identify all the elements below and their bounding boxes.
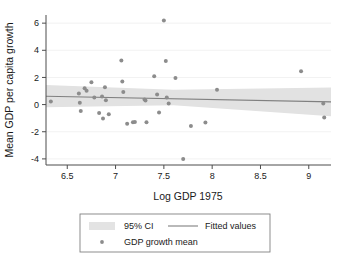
data-point [164, 59, 168, 63]
data-point [157, 110, 161, 114]
x-tick-label: 8 [210, 171, 215, 181]
legend-fitted-label: Fitted values [205, 221, 257, 231]
data-point [181, 157, 185, 161]
y-tick-label: 2 [34, 73, 39, 83]
data-point [103, 85, 107, 89]
data-point [322, 115, 326, 119]
chart-figure: -4-20246 6.577.588.59 Mean GDP per capit… [0, 0, 342, 258]
data-point [321, 102, 325, 106]
data-point [89, 80, 93, 84]
data-point [173, 76, 177, 80]
legend-scatter-label: GDP growth mean [124, 237, 198, 247]
data-point [167, 102, 171, 106]
x-tick-label: 7 [113, 171, 118, 181]
data-point [79, 109, 83, 113]
data-point [92, 96, 96, 100]
y-tick-label: 4 [34, 45, 39, 55]
data-point [133, 120, 137, 124]
data-point [152, 74, 156, 78]
legend-scatter-swatch [100, 240, 104, 244]
data-point [165, 96, 169, 100]
data-point [144, 99, 148, 103]
data-point [121, 90, 125, 94]
data-point [162, 18, 166, 22]
data-point [78, 101, 82, 105]
x-tick-label: 8.5 [254, 171, 267, 181]
x-tick-label: 7.5 [158, 171, 171, 181]
y-tick-label: -2 [31, 127, 39, 137]
y-axis-title: Mean GDP per capita growth [3, 22, 15, 157]
data-point [97, 111, 101, 115]
data-point [101, 116, 105, 120]
data-point [119, 58, 123, 62]
x-tick-label: 9 [306, 171, 311, 181]
data-point [299, 69, 303, 73]
y-axis-ticks: -4-20246 [31, 18, 46, 164]
data-point [125, 122, 129, 126]
scatter-plot: -4-20246 6.577.588.59 Mean GDP per capit… [0, 0, 342, 258]
legend-ci-label: 95% CI [124, 221, 154, 231]
data-point [107, 112, 111, 116]
legend: 95% CI Fitted values GDP growth mean [80, 214, 270, 252]
data-point [120, 80, 124, 84]
data-point [215, 88, 219, 92]
data-point [155, 93, 159, 97]
data-point [49, 100, 53, 104]
y-tick-label: 6 [34, 18, 39, 28]
x-axis-title: Log GDP 1975 [153, 190, 222, 202]
data-point [203, 121, 207, 125]
data-point [144, 120, 148, 124]
data-point [77, 91, 81, 95]
data-point [104, 98, 108, 102]
y-tick-label: 0 [34, 100, 39, 110]
data-point [85, 89, 89, 93]
data-point [100, 94, 104, 98]
y-tick-label: -4 [31, 154, 39, 164]
x-tick-label: 6.5 [61, 171, 74, 181]
x-axis-ticks: 6.577.588.59 [61, 165, 311, 181]
data-point [189, 124, 193, 128]
legend-ci-swatch [89, 222, 115, 230]
